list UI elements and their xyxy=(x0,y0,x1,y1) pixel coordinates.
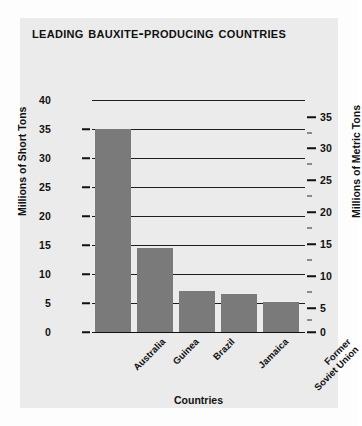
x-tick-label-former-soviet-union: Former Soviet Union xyxy=(304,336,361,393)
y2-tick-mark-20 xyxy=(307,211,316,213)
y2-tick-label-15: 15 xyxy=(320,238,360,250)
y2-tick-mark-10 xyxy=(307,275,316,277)
x-axis-line xyxy=(92,332,305,334)
y-tick-label-10: 10 xyxy=(0,268,51,280)
y2-tick-mark-5 xyxy=(307,307,316,309)
y-tick-mark-30 xyxy=(82,157,90,159)
y2-minor-tick-7 xyxy=(307,320,312,321)
bar-guinea xyxy=(137,248,173,332)
y-tick-mark-15 xyxy=(82,244,90,246)
y2-minor-tick-5 xyxy=(307,260,312,261)
y2-minor-tick-4 xyxy=(307,228,312,229)
y-tick-label-40: 40 xyxy=(0,94,51,106)
chart-panel: Leading Bauxite-Producing Countries 40 3… xyxy=(20,18,338,408)
y2-tick-mark-25 xyxy=(307,179,316,181)
y2-minor-tick-1 xyxy=(307,133,312,134)
y2-tick-label-10: 10 xyxy=(320,270,360,282)
bar-former-soviet-union xyxy=(263,302,299,332)
y-tick-mark-25 xyxy=(82,186,90,188)
y2-tick-label-5: 5 xyxy=(320,302,360,314)
x-tick-label-brazil: Brazil xyxy=(211,336,237,362)
y-tick-mark-10 xyxy=(82,273,90,275)
x-tick-label-jamaica: Jamaica xyxy=(256,336,290,370)
bar-australia xyxy=(95,129,131,332)
y2-tick-mark-15 xyxy=(307,243,316,245)
y-tick-mark-0 xyxy=(82,331,90,333)
y-axis-title: Millions of Short Tons xyxy=(16,107,28,216)
y-tick-mark-20 xyxy=(82,215,90,217)
chart-title: Leading Bauxite-Producing Countries xyxy=(32,24,328,41)
y-tick-mark-5 xyxy=(82,302,90,304)
y2-minor-tick-2 xyxy=(307,164,312,165)
bar-jamaica xyxy=(221,294,257,332)
y-axis-secondary-title: Millions of Metric Tons xyxy=(350,105,362,218)
y2-tick-label-0: 0 xyxy=(320,326,360,338)
y-tick-mark-35 xyxy=(82,128,90,130)
y2-minor-tick-3 xyxy=(307,196,312,197)
y2-tick-mark-30 xyxy=(307,147,316,149)
y-tick-label-0: 0 xyxy=(0,326,51,338)
gridline-40 xyxy=(92,100,305,101)
y-tick-label-5: 5 xyxy=(0,297,51,309)
y-tick-label-15: 15 xyxy=(0,239,51,251)
x-axis-title: Countries xyxy=(92,394,305,406)
bar-brazil xyxy=(179,291,215,332)
x-tick-label-guinea: Guinea xyxy=(170,336,201,367)
x-tick-label-australia: Australia xyxy=(131,336,168,373)
plot-area xyxy=(92,100,305,332)
y2-minor-tick-6 xyxy=(307,292,312,293)
y2-tick-mark-0 xyxy=(307,331,316,333)
y2-tick-mark-35 xyxy=(307,116,316,118)
